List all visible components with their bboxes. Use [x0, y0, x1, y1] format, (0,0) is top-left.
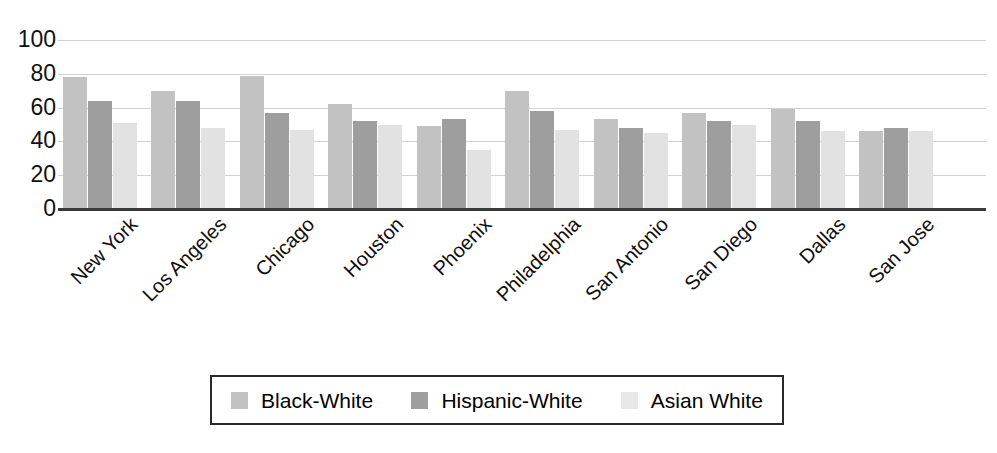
bar: [113, 123, 137, 209]
bar: [265, 113, 289, 209]
bar-group: [328, 40, 403, 209]
bar: [417, 126, 441, 209]
bar: [442, 119, 466, 209]
bar: [884, 128, 908, 209]
bar: [732, 125, 756, 210]
bar: [555, 130, 579, 209]
bar: [771, 109, 795, 209]
x-tick-label: Chicago: [162, 213, 319, 370]
legend-item[interactable]: Hispanic-White: [411, 390, 582, 411]
legend-item[interactable]: Black-White: [231, 390, 373, 411]
bar: [619, 128, 643, 209]
bar: [644, 133, 668, 209]
x-tick-label: San Diego: [604, 213, 761, 370]
bar-group: [859, 40, 934, 209]
y-tick-label-60: 60: [4, 96, 56, 119]
legend-item[interactable]: Asian White: [621, 390, 763, 411]
bar: [796, 121, 820, 209]
bar: [859, 131, 883, 209]
x-tick-label: New York: [0, 213, 142, 370]
chart-page: 020406080100 New YorkLos AngelesChicagoH…: [0, 0, 997, 453]
bar: [290, 130, 314, 209]
legend-label: Hispanic-White: [441, 390, 582, 411]
bar: [353, 121, 377, 209]
bar: [467, 150, 491, 209]
bar-group: [594, 40, 669, 209]
legend-label: Black-White: [261, 390, 373, 411]
bar-group: [771, 40, 846, 209]
bar: [63, 77, 87, 209]
bar: [530, 111, 554, 209]
bar: [909, 131, 933, 209]
legend-swatch-icon: [411, 392, 428, 409]
bar-group: [151, 40, 226, 209]
plot-area: [58, 40, 986, 209]
x-axis-labels: New YorkLos AngelesChicagoHoustonPhoenix…: [0, 213, 997, 323]
legend-swatch-icon: [231, 392, 248, 409]
x-tick-label: Phoenix: [339, 213, 496, 370]
bar-group: [417, 40, 492, 209]
y-tick-label-40: 40: [4, 129, 56, 152]
x-axis-baseline: [58, 208, 986, 211]
bar: [328, 104, 352, 209]
bar: [240, 76, 264, 210]
x-tick-label: Dallas: [693, 213, 850, 370]
bar-group: [505, 40, 580, 209]
bar-group: [63, 40, 138, 209]
y-axis: 020406080100: [0, 0, 56, 220]
bar: [505, 91, 529, 209]
x-tick-label: Houston: [250, 213, 407, 370]
legend-label: Asian White: [651, 390, 763, 411]
x-tick-label: Los Angeles: [73, 213, 230, 370]
bar: [682, 113, 706, 209]
bar: [821, 131, 845, 209]
bar-group: [682, 40, 757, 209]
y-tick-label-80: 80: [4, 62, 56, 85]
x-tick-label: Philadelphia: [427, 213, 584, 370]
bar: [707, 121, 731, 209]
bar-group: [240, 40, 315, 209]
legend-swatch-icon: [621, 392, 638, 409]
bar: [201, 128, 225, 209]
y-tick-label-100: 100: [4, 28, 56, 51]
chart-legend: Black-WhiteHispanic-WhiteAsian White: [210, 375, 784, 425]
bar: [176, 101, 200, 209]
bar: [88, 101, 112, 209]
bar: [594, 119, 618, 209]
x-tick-label: San Antonio: [516, 213, 673, 370]
x-tick-label: San Jose: [781, 213, 938, 370]
y-tick-label-20: 20: [4, 163, 56, 186]
bar: [378, 125, 402, 210]
bar: [151, 91, 175, 209]
